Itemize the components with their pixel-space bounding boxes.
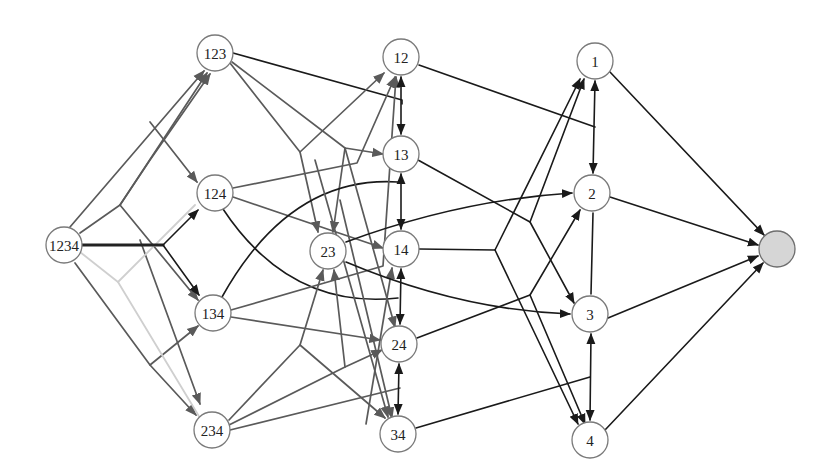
node-label: 34 bbox=[391, 427, 407, 443]
edge-arrow bbox=[230, 63, 384, 152]
edge-arrow bbox=[233, 53, 402, 104]
edge-arrow bbox=[495, 250, 578, 424]
node-label: 1 bbox=[591, 54, 599, 70]
edge-arrow bbox=[233, 77, 395, 188]
edge-arrow bbox=[118, 282, 200, 418]
edge-arrow bbox=[232, 62, 383, 154]
edge-arrow bbox=[608, 256, 758, 318]
edge-arrow bbox=[231, 77, 396, 310]
edge-arrow bbox=[80, 73, 207, 233]
node-label: 14 bbox=[394, 242, 410, 258]
edge-arrow bbox=[400, 269, 401, 324]
node-label: 123 bbox=[204, 46, 227, 62]
node-label: 134 bbox=[202, 306, 225, 322]
node-2: 2 bbox=[574, 175, 610, 211]
node-234: 234 bbox=[194, 412, 230, 448]
edge-arrow bbox=[120, 74, 210, 205]
node-12: 12 bbox=[383, 39, 419, 75]
edge-arrow bbox=[398, 364, 399, 414]
edge-arrow bbox=[229, 350, 382, 425]
edge-arrow bbox=[163, 210, 198, 245]
node-23: 23 bbox=[310, 233, 346, 269]
edge-arrow bbox=[150, 122, 197, 182]
node-label: 1234 bbox=[49, 238, 80, 254]
edge-arrow bbox=[610, 72, 764, 235]
node-label: 124 bbox=[204, 186, 227, 202]
sink-node bbox=[759, 231, 795, 267]
edge-arrow bbox=[229, 270, 323, 420]
node-14: 14 bbox=[383, 231, 419, 267]
node-label: 24 bbox=[392, 337, 408, 353]
node-label: 13 bbox=[394, 147, 409, 163]
node-24: 24 bbox=[381, 326, 417, 362]
edge-arrow bbox=[419, 79, 580, 250]
node-label: 12 bbox=[394, 50, 409, 66]
node-label: 4 bbox=[586, 433, 594, 449]
edge-arrow bbox=[416, 377, 590, 428]
node-134: 134 bbox=[195, 295, 231, 331]
node-4: 4 bbox=[572, 422, 608, 458]
edge-arrow bbox=[70, 71, 204, 227]
node-circle bbox=[759, 231, 795, 267]
edge-arrow bbox=[591, 213, 593, 294]
node-label: 2 bbox=[588, 186, 596, 202]
node-1234: 1234 bbox=[46, 227, 82, 263]
edge-arrow bbox=[593, 81, 595, 173]
node-1: 1 bbox=[577, 43, 613, 79]
node-3: 3 bbox=[572, 296, 608, 332]
node-label: 23 bbox=[321, 244, 336, 260]
edge-arrow bbox=[417, 210, 580, 338]
edge-arrow bbox=[75, 263, 196, 415]
edge-arrow bbox=[605, 263, 763, 430]
edge-arrow bbox=[163, 245, 199, 295]
edge-arrow bbox=[334, 270, 345, 367]
node-123: 123 bbox=[197, 35, 233, 71]
node-label: 234 bbox=[201, 423, 224, 439]
lattice-diagram: 12341231241342341213231424341234 bbox=[0, 0, 835, 475]
node-13: 13 bbox=[383, 136, 419, 172]
node-124: 124 bbox=[197, 175, 233, 211]
node-label: 3 bbox=[586, 307, 594, 323]
edge-arrow bbox=[120, 205, 198, 300]
edge-arrow bbox=[418, 160, 574, 303]
node-34: 34 bbox=[380, 416, 416, 452]
edge-arrow bbox=[315, 160, 388, 417]
